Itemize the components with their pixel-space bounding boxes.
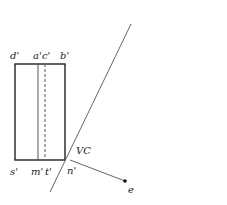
label-c: c' <box>42 50 50 61</box>
label-a: a' <box>33 50 42 61</box>
label-vc: VC <box>76 145 91 156</box>
label-s: s' <box>10 166 18 177</box>
label-t: t' <box>45 166 52 177</box>
label-d: d' <box>10 50 19 61</box>
eye-point <box>123 179 127 183</box>
projection-diagram: d' a' c' b' s' m' t' n' VC e <box>0 0 227 205</box>
label-e: e <box>128 184 134 195</box>
sight-line-vc-e <box>70 160 125 181</box>
label-m: m' <box>31 166 43 177</box>
rectangle-projection <box>15 64 65 160</box>
label-b: b' <box>60 50 69 61</box>
label-n: n' <box>67 165 76 176</box>
